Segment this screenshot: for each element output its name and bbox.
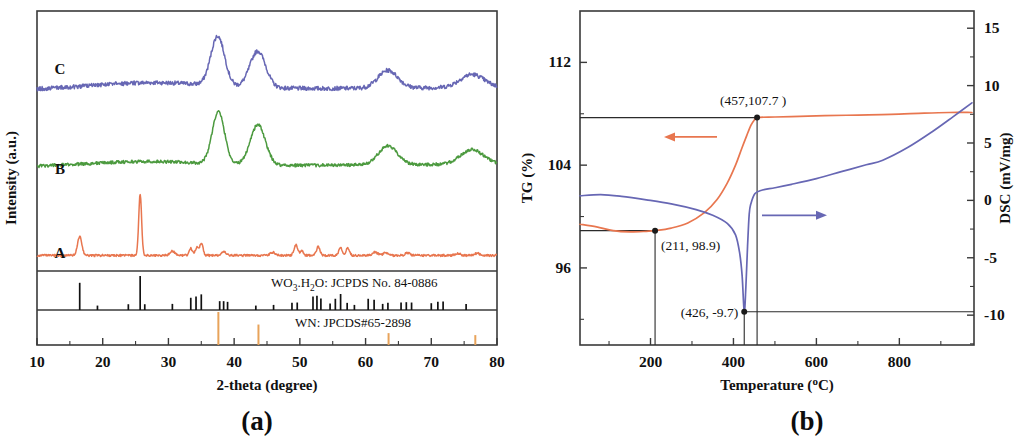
panel-a-xtick-label: 50 (292, 353, 308, 370)
panel-b-xtick-label: 400 (722, 353, 746, 370)
xrd-curve-A (37, 195, 497, 257)
panel-a-xrd: 1020304050607080Intensity (a.u.)2-theta … (0, 0, 512, 443)
marker-211 (652, 228, 658, 234)
panel-b-ytick-right-label: -5 (984, 249, 997, 266)
panel-a-plot-frame (37, 11, 497, 345)
panel-a-letter: (a) (241, 406, 272, 436)
panel-b-ytick-left-label: 112 (549, 53, 572, 70)
panel-b-plot-frame (580, 11, 974, 345)
panel-a-xtick-label: 40 (226, 353, 242, 370)
ref-label-wo3h2o: WO3.H2O: JCPDS No. 84-0886 (271, 275, 438, 293)
xrd-curve-C (37, 36, 497, 91)
panel-b-ytick-right-label: 0 (984, 191, 992, 208)
xrd-curve-label-B: B (55, 161, 65, 177)
panel-b-xlabel: Temperature (oC) (720, 375, 833, 394)
panel-b-svg: 96104112-10-5051015200400600800TG (%)DSC… (512, 0, 1025, 443)
annotation-211-989: (211, 98.9) (661, 238, 720, 253)
panel-a-xtick-label: 30 (161, 353, 177, 370)
xrd-curve-B (37, 111, 497, 168)
panel-a-xtick-label: 10 (29, 353, 45, 370)
dsc-axis-arrow-head (816, 211, 827, 220)
panel-b-xtick-label: 200 (639, 353, 663, 370)
panel-a-xtick-label: 60 (358, 353, 374, 370)
panel-b-ytick-right-label: 15 (984, 19, 1000, 36)
panel-b-ytick-right-label: 5 (984, 134, 992, 151)
panel-a-svg: 1020304050607080Intensity (a.u.)2-theta … (0, 0, 512, 443)
annotation-457-1077: (457,107.7 ) (720, 93, 786, 108)
tg-axis-arrow-head (664, 132, 675, 141)
panel-b-ytick-left-label: 96 (556, 259, 572, 276)
marker-457 (754, 115, 760, 121)
panel-b-xtick-label: 600 (805, 353, 829, 370)
panel-a-xtick-label: 20 (95, 353, 111, 370)
panel-a-xlabel: 2-theta (degree) (217, 377, 318, 394)
panel-b-tg-dsc: 96104112-10-5051015200400600800TG (%)DSC… (512, 0, 1025, 443)
panel-b-ylabel-right: DSC (mV/mg) (997, 132, 1014, 223)
panel-a-xtick-label: 70 (424, 353, 440, 370)
panel-b-ytick-left-label: 104 (548, 156, 572, 173)
panel-a-ylabel: Intensity (a.u.) (3, 131, 20, 225)
annotation-426-97: (426, -9.7) (681, 305, 738, 320)
tg-dsc-curve-TG (580, 112, 972, 232)
panel-b-ytick-right-label: -10 (984, 306, 1005, 323)
xrd-curve-label-C: C (55, 61, 66, 77)
ref-label-wn: WN: JPCDS#65-2898 (295, 315, 411, 330)
marker-426 (741, 309, 747, 315)
figure-container: 1020304050607080Intensity (a.u.)2-theta … (0, 0, 1025, 443)
panel-b-xtick-label: 800 (888, 353, 912, 370)
tg-dsc-curve-DSC (580, 103, 972, 312)
panel-b-letter: (b) (791, 406, 824, 436)
panel-b-ytick-right-label: 10 (984, 77, 1000, 94)
xrd-curve-label-A: A (55, 245, 66, 261)
panel-a-xtick-label: 80 (489, 353, 505, 370)
panel-b-ylabel-left: TG (%) (519, 153, 536, 203)
